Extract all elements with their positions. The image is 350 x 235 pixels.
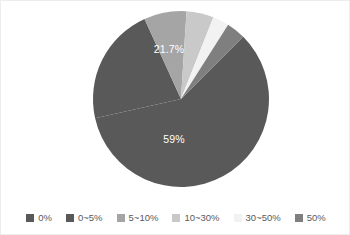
legend-item-label: 10~30% — [184, 213, 219, 223]
plot-area: 59%21.7% — [1, 1, 350, 201]
legend-swatch-icon — [117, 214, 125, 222]
legend-swatch-icon — [234, 214, 242, 222]
pie-data-label: 59% — [163, 133, 184, 145]
legend-item[interactable]: 5~10% — [117, 213, 159, 223]
legend-item-label: 50% — [307, 213, 326, 223]
legend-item[interactable]: 10~30% — [172, 213, 219, 223]
legend-item[interactable]: 0~5% — [66, 213, 103, 223]
pie-data-label: 21.7% — [154, 43, 184, 55]
pie-slices-group — [93, 11, 269, 187]
legend-item[interactable]: 50% — [295, 213, 326, 223]
legend-item-label: 30~50% — [246, 213, 281, 223]
legend-swatch-icon — [26, 214, 34, 222]
legend-item-label: 0~5% — [78, 213, 103, 223]
pie-svg: 59%21.7% — [1, 1, 350, 201]
legend-item[interactable]: 0% — [26, 213, 52, 223]
pie-chart-figure: 59%21.7% 0%0~5%5~10%10~30%30~50%50% — [0, 0, 350, 235]
legend-item-label: 0% — [38, 213, 52, 223]
legend-item-label: 5~10% — [129, 213, 159, 223]
legend-swatch-icon — [295, 214, 303, 222]
legend-swatch-icon — [172, 214, 180, 222]
chart-legend: 0%0~5%5~10%10~30%30~50%50% — [1, 202, 350, 234]
legend-swatch-icon — [66, 214, 74, 222]
legend-item[interactable]: 30~50% — [234, 213, 281, 223]
